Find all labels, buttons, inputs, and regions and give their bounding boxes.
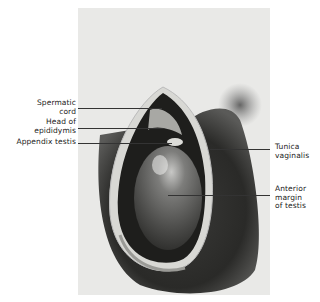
leader-tunica-vaginalis — [210, 149, 270, 150]
leader-appendix-testis — [78, 143, 172, 144]
label-head-of-epididymis: Head of epididymis — [34, 118, 76, 135]
label-spermatic-cord: Spermatic cord — [37, 99, 76, 116]
label-tunica-vaginalis: Tunica vaginalis — [275, 143, 309, 160]
leader-head-of-epididymis — [78, 128, 164, 129]
label-anterior-margin: Anterior margin of testis — [275, 185, 306, 211]
label-line: cord — [37, 108, 76, 117]
label-line: epididymis — [34, 127, 76, 136]
leader-spermatic-cord — [78, 108, 162, 109]
leader-anterior-margin — [168, 195, 270, 196]
label-line: vaginalis — [275, 152, 309, 161]
label-line: Appendix testis — [16, 138, 76, 147]
label-appendix-testis: Appendix testis — [16, 138, 76, 147]
label-line: of testis — [275, 202, 306, 211]
anatomy-illustration — [0, 0, 320, 302]
